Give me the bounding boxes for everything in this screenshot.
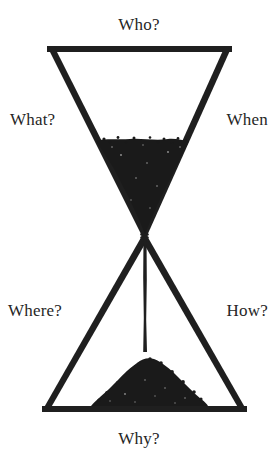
label-how: How? (227, 302, 268, 319)
label-what: What? (10, 111, 55, 128)
label-who: Who? (0, 16, 278, 33)
label-where: Where? (8, 302, 62, 319)
label-why: Why? (0, 430, 278, 447)
upper-funnel-top-bar (47, 46, 232, 52)
hourglass-figure (0, 0, 278, 465)
falling-sand-stream (143, 236, 147, 352)
label-when: When (227, 111, 268, 128)
lower-funnel-bottom-bar (42, 406, 247, 412)
